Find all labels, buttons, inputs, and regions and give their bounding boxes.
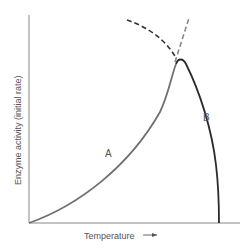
x-axis-label: Temperature [84,231,135,241]
curve-a-label: A [105,148,112,159]
chart-canvas: A B Temperature Enzyme activity (initial… [0,0,247,250]
curve-b-label: B [203,112,210,123]
curve-a [29,64,176,223]
dashed-rise-curve [175,18,189,62]
dashed-denaturation-curve [127,20,176,58]
curve-b [176,60,219,224]
x-axis-arrow-icon [152,233,157,237]
y-axis-label: Enzyme activity (initial rate) [13,75,23,185]
